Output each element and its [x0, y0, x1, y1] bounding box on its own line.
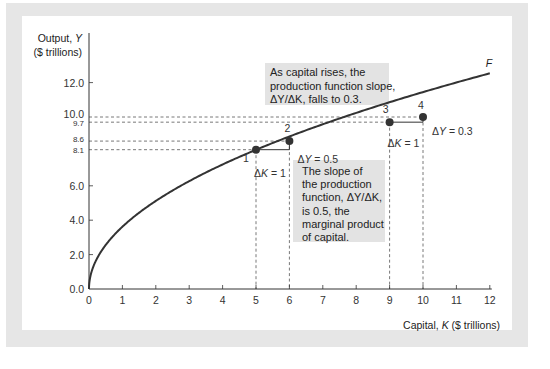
x-tick-label: 12	[484, 294, 496, 306]
x-tick-label: 8	[353, 294, 359, 306]
delta-label: ΔY = 0.5	[297, 153, 338, 165]
x-tick-label: 5	[253, 294, 259, 306]
data-point	[252, 146, 260, 154]
x-tick-label: 0	[86, 294, 92, 306]
x-tick-label: 7	[320, 294, 326, 306]
y-tick-label: 2.0	[69, 249, 84, 261]
data-point	[419, 113, 427, 121]
production-function-chart: As capital rises, theproduction function…	[0, 0, 550, 369]
curve-label-f: F	[486, 57, 493, 69]
x-tick-label: 4	[220, 294, 226, 306]
y-ref-tick-label: 8.6	[73, 135, 85, 144]
x-tick-label: 11	[451, 294, 462, 306]
y-ref-tick-label: 9.7	[73, 119, 85, 128]
x-tick-label: 3	[186, 294, 192, 306]
delta-label: ΔK = 1	[254, 167, 286, 179]
point-label: 3	[383, 103, 389, 115]
x-tick-label: 9	[387, 294, 393, 306]
delta-label: ΔK = 1	[388, 137, 420, 149]
data-point	[285, 137, 293, 145]
x-axis-title: Capital, K ($ trillions)	[403, 319, 500, 331]
y-tick-label: 0.0	[69, 283, 84, 295]
point-label: 2	[284, 122, 290, 134]
annotation-bottom-line: The slope of	[302, 165, 363, 177]
data-point	[386, 118, 394, 126]
annotation-bottom-line: function, ΔY/ΔK,	[302, 191, 382, 203]
annotation-bottom-line: the production	[302, 178, 372, 190]
delta-label: ΔY = 0.3	[432, 125, 473, 137]
y-tick-label: 4.0	[69, 214, 84, 226]
y-ref-tick-label: 8.1	[73, 146, 85, 155]
x-tick-label: 1	[119, 294, 125, 306]
y-ref-tick-label: 10.0	[64, 108, 85, 120]
x-tick-label: 2	[153, 294, 159, 306]
annotation-top-line: ΔY/ΔK, falls to 0.3.	[270, 93, 362, 105]
annotation-bottom-line: of capital.	[302, 231, 349, 243]
annotation-top-line: production function slope,	[270, 80, 395, 92]
x-tick-label: 10	[417, 294, 429, 306]
y-axis-title: Output, Y	[38, 32, 83, 44]
annotation-bottom-line: is 0.5, the	[302, 205, 350, 217]
y-tick-label: 6.0	[69, 180, 84, 192]
point-label: 4	[418, 99, 424, 111]
point-label: 1	[243, 152, 249, 164]
annotation-top-line: As capital rises, the	[270, 66, 365, 78]
x-tick-label: 6	[286, 294, 292, 306]
y-tick-label: 12.0	[64, 77, 85, 89]
y-axis-title-units: ($ trillions)	[34, 46, 82, 58]
annotation-bottom-line: marginal product	[302, 218, 384, 230]
